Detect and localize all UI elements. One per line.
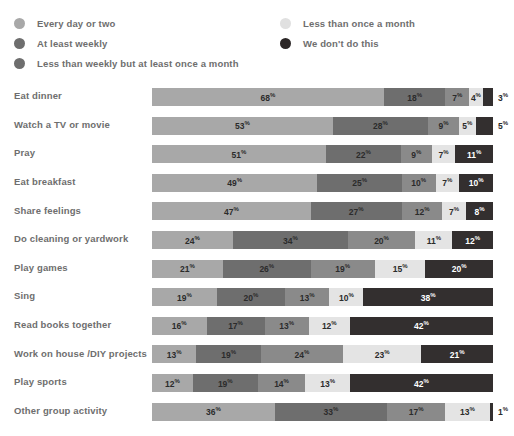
segment-number: 13 xyxy=(300,293,309,303)
bar-segment[interactable]: 7% xyxy=(432,145,456,163)
bar-segment[interactable]: 34% xyxy=(233,231,348,249)
bar-segment[interactable]: 10% xyxy=(402,174,436,192)
bar-segment[interactable]: 5% xyxy=(459,117,476,135)
segment-number: 68 xyxy=(261,92,270,102)
bar-segment[interactable]: 33% xyxy=(275,403,388,421)
legend-item-label: We don't do this xyxy=(303,38,379,49)
stacked-bar: 13%19%24%23%21% xyxy=(152,345,493,363)
bar-segment[interactable]: 19% xyxy=(152,288,217,306)
bar-segment[interactable]: 12% xyxy=(152,374,193,392)
bar-segment[interactable]: 15% xyxy=(375,260,426,278)
bar-segment-value: 16% xyxy=(172,320,187,331)
bar-segment[interactable]: 20% xyxy=(348,231,416,249)
bar-segment[interactable]: 11% xyxy=(415,231,452,249)
legend-swatch-icon xyxy=(280,38,291,49)
bar-segment[interactable]: 24% xyxy=(261,345,343,363)
percent-sign: % xyxy=(241,149,246,155)
bar-segment[interactable]: 23% xyxy=(343,345,421,363)
row-category-label: Eat breakfast xyxy=(14,171,152,193)
percent-sign: % xyxy=(436,235,441,241)
segment-number: 19 xyxy=(221,350,230,360)
bar-segment[interactable]: 9% xyxy=(428,117,459,135)
bar-segment[interactable]: 10% xyxy=(459,174,493,192)
legend-swatch-icon xyxy=(280,18,291,29)
legend-item[interactable]: We don't do this xyxy=(280,34,415,53)
bar-segment[interactable]: 12% xyxy=(309,317,350,335)
segment-number: 17 xyxy=(409,407,418,417)
bar-segment[interactable]: 13% xyxy=(305,374,349,392)
bar-segment-value: 4% xyxy=(471,92,481,103)
percent-sign: % xyxy=(270,92,275,98)
percent-sign: % xyxy=(330,378,335,384)
bar-segment[interactable]: 7% xyxy=(436,174,460,192)
percent-sign: % xyxy=(423,378,428,384)
chart-row: Other group activity36%33%17%13%1% xyxy=(0,400,514,429)
bar-segment[interactable]: 68% xyxy=(152,88,384,106)
bar-segment[interactable]: 7% xyxy=(442,202,466,220)
bar-segment[interactable]: 5% xyxy=(476,117,493,135)
bar-segment[interactable]: 3% xyxy=(483,88,493,106)
legend-item[interactable]: Less than weekly but at least once a mon… xyxy=(14,54,239,73)
legend-item[interactable]: Every day or two xyxy=(14,14,239,33)
bar-segment[interactable]: 24% xyxy=(152,231,233,249)
segment-number: 26 xyxy=(259,264,268,274)
bar-segment[interactable]: 13% xyxy=(265,317,309,335)
bar-segment[interactable]: 36% xyxy=(152,403,275,421)
legend-column-left: Every day or twoAt least weeklyLess than… xyxy=(14,14,239,74)
bar-segment[interactable]: 51% xyxy=(152,145,326,163)
bar-segment[interactable]: 21% xyxy=(421,345,493,363)
bar-segment[interactable]: 4% xyxy=(469,88,483,106)
bar-segment-value: 21% xyxy=(450,349,465,360)
segment-number: 38 xyxy=(421,293,430,303)
bar-segment[interactable]: 26% xyxy=(223,260,311,278)
bar-segment[interactable]: 42% xyxy=(350,374,493,392)
bar-segment-value: 51% xyxy=(232,149,247,160)
bar-segment[interactable]: 38% xyxy=(363,288,493,306)
legend-item[interactable]: At least weekly xyxy=(14,34,239,53)
bar-segment[interactable]: 49% xyxy=(152,174,317,192)
bar-segment[interactable]: 20% xyxy=(217,288,285,306)
bar-segment[interactable]: 19% xyxy=(193,374,258,392)
bar-segment-value: 53% xyxy=(235,120,250,131)
bar-segment[interactable]: 12% xyxy=(452,231,493,249)
bar-segment-value: 13% xyxy=(279,320,294,331)
bar-segment[interactable]: 8% xyxy=(466,202,493,220)
bar-segment-value: 33% xyxy=(324,406,339,417)
bar-segment[interactable]: 19% xyxy=(311,260,375,278)
percent-sign: % xyxy=(233,206,238,212)
bar-segment[interactable]: 28% xyxy=(333,117,428,135)
bar-segment[interactable]: 13% xyxy=(285,288,329,306)
percent-sign: % xyxy=(383,120,388,126)
legend-item[interactable]: Less than once a month xyxy=(280,14,415,33)
bar-segment[interactable]: 17% xyxy=(387,403,445,421)
bar-segment[interactable]: 19% xyxy=(196,345,261,363)
bar-segment[interactable]: 22% xyxy=(326,145,401,163)
bar-segment[interactable]: 1% xyxy=(490,403,493,421)
bar-segment[interactable]: 10% xyxy=(329,288,363,306)
bar-segment[interactable]: 12% xyxy=(402,202,443,220)
bar-segment-value: 23% xyxy=(375,349,390,360)
bar-segment-value: 3% xyxy=(498,92,508,103)
bar-segment[interactable]: 42% xyxy=(350,317,493,335)
bar-segment[interactable]: 14% xyxy=(258,374,306,392)
chart-row: Pray51%22%9%7%11% xyxy=(0,142,514,171)
bar-segment[interactable]: 53% xyxy=(152,117,333,135)
percent-sign: % xyxy=(244,120,249,126)
bar-segment[interactable]: 9% xyxy=(401,145,432,163)
bar-segment[interactable]: 18% xyxy=(384,88,445,106)
bar-segment[interactable]: 11% xyxy=(455,145,493,163)
bar-segment[interactable]: 27% xyxy=(311,202,402,220)
bar-segment[interactable]: 7% xyxy=(445,88,469,106)
bar-segment[interactable]: 13% xyxy=(445,403,489,421)
bar-segment[interactable]: 13% xyxy=(152,345,196,363)
stacked-bar: 19%20%13%10%38% xyxy=(152,288,493,306)
legend-item-label: Every day or two xyxy=(37,18,115,29)
bar-segment[interactable]: 20% xyxy=(425,260,493,278)
bar-segment[interactable]: 16% xyxy=(152,317,207,335)
bar-segment[interactable]: 17% xyxy=(207,317,265,335)
bar-segment[interactable]: 21% xyxy=(152,260,223,278)
stacked-bar: 24%34%20%11%12% xyxy=(152,231,493,249)
bar-segment[interactable]: 25% xyxy=(317,174,401,192)
chart-row: Play games21%26%19%15%20% xyxy=(0,257,514,286)
bar-segment[interactable]: 47% xyxy=(152,202,311,220)
